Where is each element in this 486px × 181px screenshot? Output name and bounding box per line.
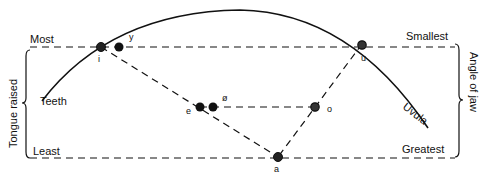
u-to-a-line xyxy=(278,44,362,157)
label-least: Least xyxy=(33,145,60,157)
label-most: Most xyxy=(30,33,54,45)
label-uvula: Uvula xyxy=(401,100,431,127)
label-greatest: Greatest xyxy=(402,143,444,155)
point-phi xyxy=(209,103,218,112)
label-teeth: Teeth xyxy=(40,95,67,107)
diagram-canvas: i y u e ø o a Most Least Smallest Greate… xyxy=(0,0,486,181)
label-phi: ø xyxy=(222,93,228,103)
label-u: u xyxy=(361,53,366,63)
point-y xyxy=(115,43,124,52)
point-a xyxy=(274,153,283,162)
label-e: e xyxy=(186,106,191,116)
label-angle-of-jaw: Angle of jaw xyxy=(468,52,480,112)
label-a: a xyxy=(274,164,279,174)
label-o: o xyxy=(327,104,332,114)
right-brace xyxy=(455,44,463,157)
left-brace xyxy=(22,50,30,158)
i-to-a-line xyxy=(101,47,278,157)
point-u xyxy=(358,41,366,49)
label-tongue-raised: Tongue raised xyxy=(7,79,19,148)
vowel-diagram: i y u e ø o a Most Least Smallest Greate… xyxy=(0,0,486,181)
point-i xyxy=(97,43,106,52)
label-y: y xyxy=(129,32,134,42)
palate-curve xyxy=(42,10,428,128)
label-i: i xyxy=(98,54,100,64)
point-o xyxy=(311,103,319,111)
label-smallest: Smallest xyxy=(406,30,448,42)
point-e xyxy=(196,103,205,112)
